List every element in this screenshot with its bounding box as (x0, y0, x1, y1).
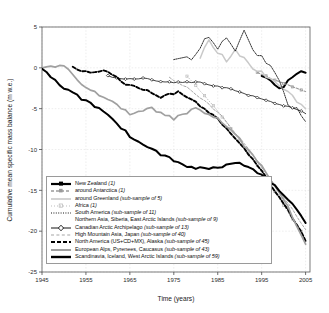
legend-item-9[interactable]: European Alps, Pyrenees, Caucasus (sub-s… (50, 246, 268, 253)
svg-text:0: 0 (34, 65, 38, 71)
legend-key-icon (50, 216, 72, 223)
legend-item-label: Africa (1) (75, 202, 97, 209)
svg-text:1955: 1955 (79, 277, 93, 283)
figure-container: 1945195519651975198519952005 50-5-10-15-… (0, 0, 329, 313)
legend-item-6[interactable]: Canadian Arctic Archipelago (sub-sample … (50, 224, 268, 231)
svg-text:1945: 1945 (35, 277, 49, 283)
legend-item-label: around Greenland (sub-sample of 5) (75, 195, 162, 202)
legend-item-label: Canadian Arctic Archipelago (sub-sample … (75, 224, 189, 231)
chart-legend: New Zealand (1)around Antarctica (1)arou… (46, 176, 272, 264)
legend-item-10[interactable]: Scandinavia, Iceland, West Arctic Island… (50, 253, 268, 260)
legend-key-icon (50, 224, 72, 231)
legend-item-label: New Zealand (1) (75, 180, 115, 187)
legend-key-icon (50, 195, 72, 202)
legend-key-icon (50, 253, 72, 260)
legend-item-8[interactable]: North America (US+CD+MX), Alaska (sub-sa… (50, 238, 268, 245)
legend-item-label: Northern Asia, Siberia, East Arctic Isla… (75, 216, 218, 223)
legend-item-label: South America (sub-sample of 11) (75, 209, 156, 216)
svg-text:1985: 1985 (211, 277, 225, 283)
legend-key-icon (50, 209, 72, 216)
svg-text:-5: -5 (32, 106, 38, 112)
legend-item-1[interactable]: around Antarctica (1) (50, 187, 268, 194)
legend-key-icon (50, 187, 72, 194)
legend-key-icon (50, 246, 72, 253)
legend-item-4[interactable]: South America (sub-sample of 11) (50, 209, 268, 216)
legend-key-icon (50, 202, 72, 209)
legend-item-7[interactable]: High Mountain Asia, Japan (sub-sample of… (50, 231, 268, 238)
legend-item-3[interactable]: Africa (1) (50, 202, 268, 209)
x-axis-title: Time (years) (158, 295, 195, 303)
chart-canvas: 1945195519651975198519952005 50-5-10-15-… (0, 0, 329, 313)
legend-item-label: High Mountain Asia, Japan (sub-sample of… (75, 231, 186, 238)
legend-item-2[interactable]: around Greenland (sub-sample of 5) (50, 195, 268, 202)
svg-text:-25: -25 (28, 269, 37, 275)
svg-text:-10: -10 (28, 147, 37, 153)
svg-text:-15: -15 (28, 188, 37, 194)
legend-key-icon (50, 180, 72, 187)
svg-text:1965: 1965 (123, 277, 137, 283)
y-axis-ticks: 50-5-10-15-20-25 (28, 24, 42, 275)
legend-item-label: North America (US+CD+MX), Alaska (sub-sa… (75, 238, 209, 245)
svg-text:2005: 2005 (299, 277, 313, 283)
legend-item-label: around Antarctica (1) (75, 187, 125, 194)
legend-item-label: Scandinavia, Iceland, West Arctic Island… (75, 253, 220, 260)
svg-text:-20: -20 (28, 228, 37, 234)
legend-key-icon (50, 238, 72, 245)
legend-key-icon (50, 231, 72, 238)
series-line-0 (262, 71, 306, 88)
legend-item-5[interactable]: Northern Asia, Siberia, East Arctic Isla… (50, 216, 268, 223)
legend-item-label: European Alps, Pyrenees, Caucasus (sub-s… (75, 246, 209, 253)
legend-item-0[interactable]: New Zealand (1) (50, 180, 268, 187)
svg-text:5: 5 (34, 24, 38, 30)
y-axis-title: Cumulative mean specific mass balance (m… (6, 79, 14, 222)
svg-text:1975: 1975 (167, 277, 181, 283)
x-axis-ticks: 1945195519651975198519952005 (35, 272, 313, 283)
svg-text:1995: 1995 (255, 277, 269, 283)
